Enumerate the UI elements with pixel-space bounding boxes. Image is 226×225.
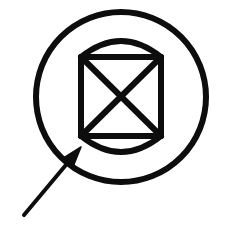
figure-background bbox=[0, 0, 226, 225]
symbol-figure: Circled cylinder symbol with X and annot… bbox=[0, 0, 226, 225]
